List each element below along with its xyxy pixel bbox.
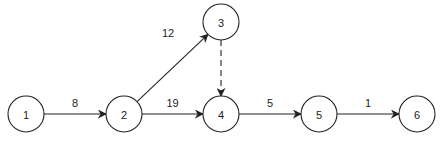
node-6: 6 — [399, 96, 435, 132]
edge-label-2-4: 19 — [166, 97, 178, 109]
edge-2-3 — [137, 34, 208, 101]
node-4: 4 — [203, 96, 239, 132]
network-diagram: 8121951 123456 — [0, 0, 441, 141]
arrow-line — [137, 34, 208, 101]
node-label: 5 — [316, 109, 322, 121]
node-label: 6 — [414, 109, 420, 121]
node-label: 1 — [23, 109, 29, 121]
node-1: 1 — [8, 96, 44, 132]
node-label: 2 — [121, 109, 127, 121]
node-2: 2 — [106, 96, 142, 132]
edge-label-5-6: 1 — [365, 97, 371, 109]
node-5: 5 — [301, 96, 337, 132]
edge-label-2-3: 12 — [162, 27, 174, 39]
edge-label-1-2: 8 — [72, 97, 78, 109]
edge-label-4-5: 5 — [267, 97, 273, 109]
node-3: 3 — [203, 4, 239, 40]
node-label: 3 — [218, 17, 224, 29]
node-label: 4 — [218, 109, 224, 121]
